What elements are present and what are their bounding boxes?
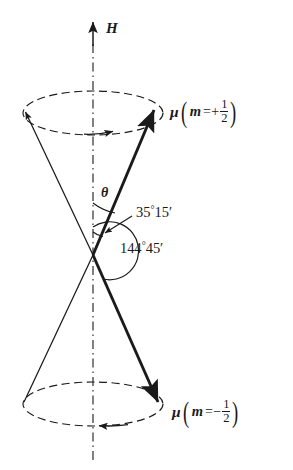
upper-fraction: 1 2 bbox=[220, 98, 228, 125]
lower-fraction-denominator: 2 bbox=[222, 411, 230, 425]
upper-moment-vector bbox=[93, 110, 154, 255]
lower-equals-sign: = bbox=[205, 405, 213, 419]
upper-equals-sign: = bbox=[203, 105, 211, 119]
lower-moment-label: μ ( m = − 1 2 ) bbox=[172, 398, 240, 425]
upper-angle-label: 35°15′ bbox=[136, 205, 172, 220]
upper-sign: + bbox=[211, 105, 219, 119]
lower-sign: − bbox=[213, 405, 221, 419]
lower-m-variable: m bbox=[192, 404, 203, 419]
lower-angle-minutes: 45′ bbox=[146, 240, 163, 256]
upper-fraction-numerator: 1 bbox=[220, 98, 228, 111]
lower-mu-symbol: μ bbox=[172, 404, 181, 420]
upper-mu-symbol: μ bbox=[170, 104, 179, 120]
theta-label: θ bbox=[101, 186, 108, 200]
upper-fraction-denominator: 2 bbox=[220, 111, 228, 125]
lower-cone-left-edge bbox=[24, 255, 93, 402]
upper-precession-direction-arrow bbox=[84, 131, 113, 134]
lower-fraction: 1 2 bbox=[222, 398, 230, 425]
diagram-canvas bbox=[0, 0, 293, 470]
precession-diagram-figure: H θ 35°15′ 144°45′ μ ( m = + 1 2 ) μ ( m… bbox=[0, 0, 293, 470]
lower-angle-degrees: 144 bbox=[120, 240, 141, 256]
lower-fraction-numerator: 1 bbox=[222, 398, 230, 411]
upper-angle-minutes: 15′ bbox=[155, 204, 172, 220]
field-axis-label: H bbox=[106, 21, 118, 36]
upper-m-variable: m bbox=[190, 104, 201, 119]
lower-angle-label: 144°45′ bbox=[120, 241, 163, 256]
lower-moment-vector bbox=[93, 255, 158, 402]
upper-moment-label: μ ( m = + 1 2 ) bbox=[170, 98, 238, 125]
upper-angle-degrees: 35 bbox=[136, 204, 150, 220]
upper-cone-left-edge bbox=[26, 112, 94, 255]
